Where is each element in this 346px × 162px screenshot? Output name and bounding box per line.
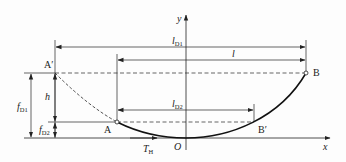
label-f-d2: fD2 xyxy=(39,124,50,136)
label-y-axis: y xyxy=(176,13,182,24)
label-tension-th: TH xyxy=(143,143,154,155)
label-b-prime: B′ xyxy=(258,124,267,135)
cable-sag-diagram: A′ B A B′ O x y lD1 l lD2 fD1 h fD2 TH xyxy=(0,0,346,162)
label-a: A xyxy=(104,124,112,135)
label-l-d2: lD2 xyxy=(172,98,183,110)
label-l: l xyxy=(232,48,235,59)
cable-dashed-extension xyxy=(55,73,117,122)
label-x-axis: x xyxy=(322,141,328,152)
label-l-d1: lD1 xyxy=(172,35,183,47)
label-h: h xyxy=(45,91,50,102)
label-b: B xyxy=(313,67,320,78)
label-f-d1: fD1 xyxy=(17,101,28,113)
point-a-marker xyxy=(115,120,119,124)
point-b-marker xyxy=(304,71,308,75)
label-a-prime: A′ xyxy=(44,59,53,70)
label-origin: O xyxy=(174,141,181,152)
cable-curve xyxy=(117,73,306,138)
